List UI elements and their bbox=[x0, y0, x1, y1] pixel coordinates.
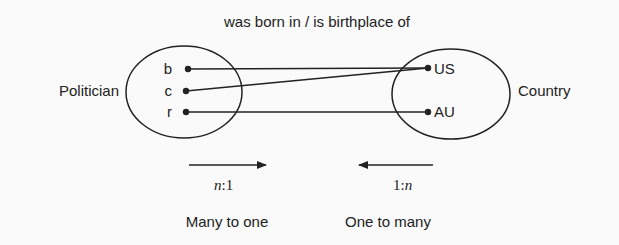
dot-r-icon bbox=[183, 109, 189, 115]
forward-description: Many to one bbox=[186, 213, 269, 230]
mapping-line-b-us bbox=[188, 68, 428, 69]
right-set-label: Country bbox=[518, 82, 571, 99]
diagram-title: was born in / is birthplace of bbox=[223, 13, 411, 30]
backward-description: One to many bbox=[345, 213, 431, 230]
dot-b-icon bbox=[185, 66, 191, 72]
dot-au-icon bbox=[425, 109, 431, 115]
dot-us-icon bbox=[425, 65, 431, 71]
right-element-us: US bbox=[434, 60, 455, 77]
mapping-line-c-us bbox=[186, 68, 428, 91]
left-element-c: c bbox=[165, 82, 173, 99]
left-set-label: Politician bbox=[59, 82, 119, 99]
left-element-b: b bbox=[164, 60, 172, 77]
relationship-diagram: was born in / is birthplace of Politicia… bbox=[0, 0, 619, 245]
dot-c-icon bbox=[183, 88, 189, 94]
right-element-au: AU bbox=[434, 103, 455, 120]
forward-ratio: n:1 bbox=[214, 177, 233, 193]
left-element-r: r bbox=[167, 103, 172, 120]
backward-ratio: 1:n bbox=[393, 177, 412, 193]
